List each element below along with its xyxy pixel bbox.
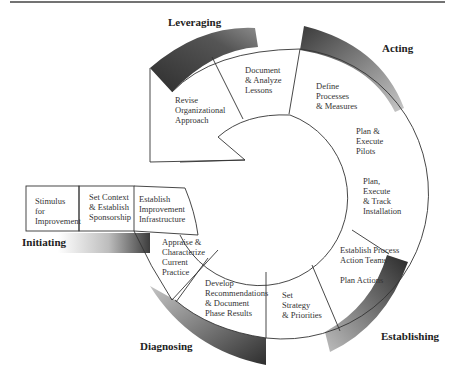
step-text-line: Develop — [205, 278, 234, 288]
inner-notch — [180, 137, 245, 162]
step-text-line: Stimulus — [35, 196, 65, 206]
phase-acting: Acting — [382, 42, 414, 54]
step-text-line: Action Teams — [340, 255, 387, 265]
step-set-strategy: SetStrategy& Priorities — [282, 290, 322, 320]
phase-initiating: Initiating — [22, 236, 67, 248]
step-text-line: Appraise & — [162, 237, 202, 247]
step-text-line: Current — [162, 257, 189, 267]
step-text-line: & Document — [205, 298, 250, 308]
step-text-line: Revise — [175, 95, 198, 105]
step-text-line: Set Context — [89, 192, 130, 202]
step-text-line: & Priorities — [282, 310, 322, 320]
step-text-line: Organizational — [175, 105, 226, 115]
step-develop-recommendations: DevelopRecommendations& DocumentPhase Re… — [205, 278, 268, 318]
step-text-line: Plan, — [363, 176, 380, 186]
step-define-processes: DefineProcesses& Measures — [316, 81, 357, 111]
step-establish-infrastructure: EstablishImprovementInfrastructure — [139, 194, 185, 224]
step-set-context: Set Context& EstablishSponsorship — [89, 192, 131, 222]
step-text-line: Recommendations — [205, 288, 268, 298]
step-text-line: Improvement — [139, 204, 185, 214]
step-text-line: Establish Process — [340, 245, 399, 255]
step-text-line: Installation — [363, 206, 402, 216]
step-text-line: Phase Results — [205, 308, 252, 318]
step-text-line: Practice — [162, 267, 190, 277]
step-text-line: Establish — [139, 194, 171, 204]
phase-leveraging: Leveraging — [168, 16, 222, 28]
step-text-line: & Measures — [316, 101, 357, 111]
step-text-line: Strategy — [282, 300, 311, 310]
step-text-line: Define — [316, 81, 339, 91]
step-text-line: & Track — [363, 196, 392, 206]
ideal-cycle-diagram: Leveraging Acting Establishing Diagnosin… — [0, 0, 450, 377]
step-text-line: Execute — [356, 136, 384, 146]
step-text-line: Plan Actions — [340, 275, 383, 285]
step-text-line: Set — [282, 290, 294, 300]
phase-diagnosing: Diagnosing — [140, 340, 193, 352]
step-document-lessons: Document& AnalyzeLessons — [245, 65, 282, 95]
step-stimulus: StimulusforImprovement — [35, 196, 81, 226]
step-text-line: Plan & — [356, 126, 380, 136]
step-revise-approach: ReviseOrganizationalApproach — [175, 95, 226, 125]
step-text-line: Characterize — [162, 247, 205, 257]
step-text-line: Processes — [316, 91, 349, 101]
step-text-line: Execute — [363, 186, 391, 196]
divider-doc-define — [289, 49, 300, 114]
step-plan-execute-track: Plan,Execute& TrackInstallation — [363, 176, 402, 216]
divider-teams-strategy — [312, 265, 340, 331]
step-text-line: & Establish — [89, 202, 130, 212]
step-text-line: Infrastructure — [139, 214, 185, 224]
step-plan-actions: Plan Actions — [340, 275, 383, 285]
step-text-line: Improvement — [35, 216, 81, 226]
step-text-line: Sponsorship — [89, 212, 131, 222]
step-text-line: for — [35, 206, 45, 216]
step-plan-execute-pilots: Plan &ExecutePilots — [356, 126, 384, 156]
step-text-line: Document — [245, 65, 281, 75]
step-text-line: Approach — [175, 115, 209, 125]
step-text-line: Lessons — [245, 85, 272, 95]
leveraging-band — [150, 28, 258, 92]
step-text-line: Pilots — [356, 146, 375, 156]
phase-establishing: Establishing — [381, 330, 440, 342]
inner-ring — [180, 115, 348, 286]
step-text-line: & Analyze — [245, 75, 282, 85]
